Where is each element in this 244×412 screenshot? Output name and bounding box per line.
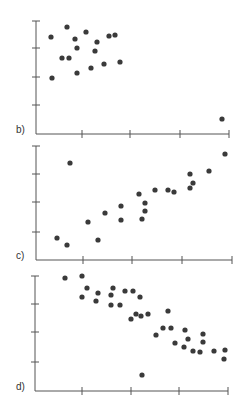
data-point	[136, 191, 141, 196]
data-point	[108, 302, 113, 307]
data-point	[165, 187, 170, 192]
data-point	[112, 32, 117, 37]
data-point	[139, 372, 144, 377]
data-point	[222, 151, 227, 156]
data-point	[200, 331, 205, 336]
data-point	[219, 116, 224, 121]
scatter-charts: b) c) d)	[0, 0, 244, 412]
data-point	[200, 339, 205, 344]
data-point	[118, 203, 123, 208]
data-point	[133, 311, 138, 316]
data-point	[101, 61, 106, 66]
data-point	[79, 273, 84, 278]
data-point	[145, 311, 150, 316]
data-point	[106, 33, 111, 38]
data-point	[130, 288, 135, 293]
data-point	[160, 325, 165, 330]
data-point	[74, 70, 79, 75]
data-point	[117, 302, 122, 307]
data-point	[95, 237, 100, 242]
data-point	[142, 200, 147, 205]
data-point	[221, 356, 226, 361]
data-point	[138, 313, 143, 318]
data-point	[79, 294, 84, 299]
data-point	[64, 24, 69, 29]
chart-label: c)	[16, 250, 24, 261]
data-point	[152, 187, 157, 192]
data-point	[142, 208, 147, 213]
data-point	[102, 210, 107, 215]
data-point	[172, 340, 177, 345]
scatter-chart-b: b)	[16, 21, 229, 138]
data-point	[66, 55, 71, 60]
data-point	[206, 168, 211, 173]
data-point	[85, 219, 90, 224]
data-point	[190, 180, 195, 185]
data-point	[197, 349, 202, 354]
data-point	[171, 189, 176, 194]
data-point	[54, 235, 59, 240]
data-point	[59, 55, 64, 60]
data-point	[48, 34, 53, 39]
data-point	[93, 298, 98, 303]
data-point	[49, 75, 54, 80]
chart-label: d)	[16, 381, 25, 392]
data-point	[128, 316, 133, 321]
data-point	[181, 344, 186, 349]
data-point	[83, 29, 88, 34]
chart-label: b)	[16, 124, 25, 135]
data-point	[95, 290, 100, 295]
data-point	[139, 216, 144, 221]
data-point	[72, 36, 77, 41]
data-point	[108, 292, 113, 297]
data-point	[185, 336, 190, 341]
data-point	[190, 348, 195, 353]
data-point	[165, 308, 170, 313]
data-point	[62, 275, 67, 280]
data-point	[187, 185, 192, 190]
data-point	[110, 285, 115, 290]
scatter-chart-d: d)	[16, 273, 228, 395]
data-point	[122, 288, 127, 293]
data-point	[84, 285, 89, 290]
data-point	[94, 39, 99, 44]
data-point	[74, 45, 79, 50]
data-point	[168, 325, 173, 330]
data-point	[137, 294, 142, 299]
data-point	[211, 348, 216, 353]
data-point	[222, 347, 227, 352]
data-point	[187, 171, 192, 176]
data-point	[64, 242, 69, 247]
data-point	[118, 217, 123, 222]
data-point	[88, 65, 93, 70]
scatter-chart-c: c)	[16, 146, 232, 264]
data-point	[92, 48, 97, 53]
data-point	[182, 327, 187, 332]
data-point	[67, 160, 72, 165]
data-point	[117, 59, 122, 64]
data-point	[153, 332, 158, 337]
